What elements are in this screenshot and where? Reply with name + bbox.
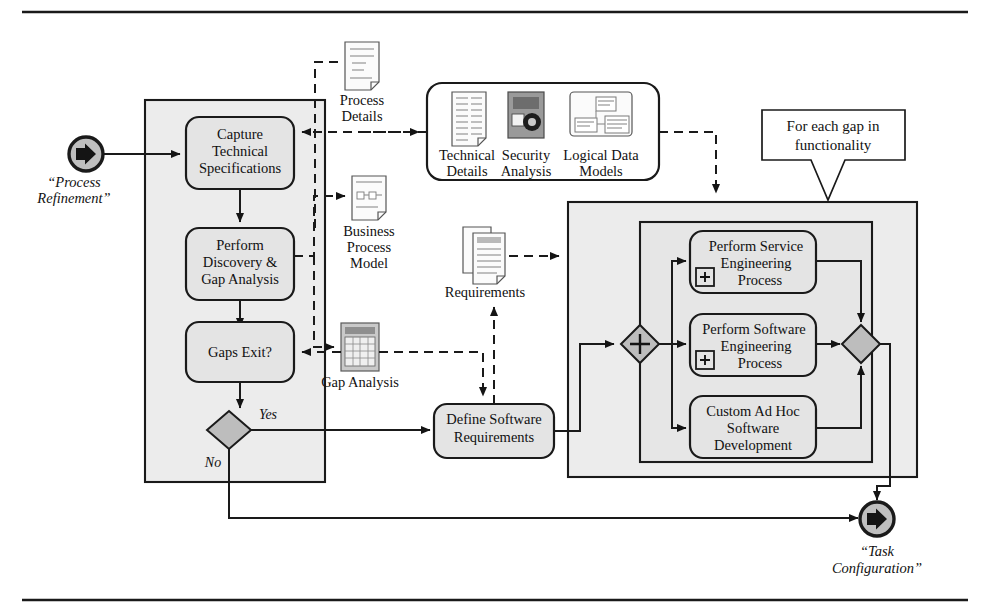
artifact-label: Process [340, 92, 385, 108]
artifact-gap-analysis[interactable]: Gap Analysis [321, 323, 399, 390]
task-perform-service-engineering-process[interactable]: Perform Service Engineering Process [690, 231, 816, 293]
artifact-label: Requirements [445, 284, 526, 300]
start-event-label-line2: Refinement” [36, 190, 110, 206]
artifact-label: Business [343, 223, 395, 239]
task-label: Define Software [446, 411, 541, 427]
task-perform-software-engineering-process[interactable]: Perform Software Engineering Process [690, 314, 816, 376]
task-label: Process [738, 272, 783, 288]
task-custom-ad-hoc-software-development[interactable]: Custom Ad Hoc Software Development [690, 396, 816, 458]
task-capture-technical-specifications[interactable]: Capture Technical Specifications [186, 117, 294, 189]
task-perform-discovery-gap-analysis[interactable]: Perform Discovery & Gap Analysis [186, 228, 294, 300]
task-gaps-exit[interactable]: Gaps Exit? [186, 322, 294, 382]
task-label: Technical [212, 143, 268, 159]
task-label: Requirements [454, 429, 535, 445]
security-lock-icon [508, 92, 544, 138]
flow-label-yes: Yes [259, 407, 278, 422]
annotation-for-each-gap: For each gap in functionality [762, 110, 905, 200]
artifact-label: Process [347, 239, 392, 255]
artifact-label: Analysis [501, 163, 552, 179]
annotation-label: For each gap in [787, 118, 880, 134]
task-define-software-requirements[interactable]: Define Software Requirements [434, 404, 554, 458]
artifact-business-process-model[interactable]: Business Process Model [343, 176, 395, 271]
task-label: Gap Analysis [201, 271, 279, 287]
diagram-canvas: “Process Refinement” Capture Technical S… [0, 0, 990, 611]
spec-document-icon [452, 92, 486, 146]
end-event-label-line1: “Task [860, 543, 895, 559]
data-model-icon [570, 92, 632, 136]
subprocess-expand-icon[interactable] [696, 351, 714, 369]
task-label: Perform Software [702, 321, 805, 337]
task-label: Software [727, 420, 779, 436]
assoc-group-to-subprocess [659, 132, 716, 193]
multi-document-icon [463, 227, 505, 284]
task-label: Engineering [721, 255, 792, 271]
artifact-label: Logical Data [563, 147, 639, 163]
artifact-label: Technical [439, 147, 495, 163]
subprocess-expand-icon[interactable] [696, 268, 714, 286]
end-event-label-line2: Configuration” [832, 560, 922, 576]
artifact-label: Gap Analysis [321, 374, 399, 390]
annotation-label: functionality [795, 137, 872, 153]
artifact-process-details[interactable]: Process Details [340, 42, 385, 124]
artifact-label: Details [341, 108, 382, 124]
task-label: Perform Service [709, 238, 804, 254]
task-label: Specifications [199, 160, 282, 176]
task-label: Discovery & [203, 254, 278, 270]
artifact-label: Security [502, 147, 551, 163]
document-icon [345, 42, 379, 90]
task-label: Gaps Exit? [208, 344, 272, 360]
artifact-label: Models [579, 163, 623, 179]
task-label: Development [714, 437, 792, 453]
spreadsheet-icon [341, 323, 379, 371]
artifact-label: Model [350, 255, 388, 271]
task-label: Perform [216, 237, 264, 253]
end-event[interactable] [860, 502, 894, 536]
artifact-requirements[interactable]: Requirements [445, 227, 526, 300]
artifact-label: Details [446, 163, 487, 179]
task-label: Capture [217, 126, 263, 142]
start-event-label-line1: “Process [47, 174, 101, 190]
artifact-security-analysis[interactable]: Security Analysis [501, 92, 552, 179]
diagram-document-icon [352, 176, 386, 220]
task-label: Custom Ad Hoc [706, 403, 799, 419]
flow-label-no: No [204, 455, 221, 470]
task-label: Process [738, 355, 783, 371]
start-event[interactable] [69, 137, 103, 171]
task-label: Engineering [721, 338, 792, 354]
